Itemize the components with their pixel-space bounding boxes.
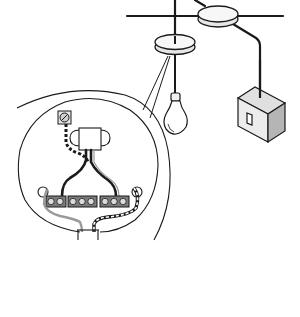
- wiring-diagram: [0, 0, 300, 317]
- ceiling-rose: [155, 35, 195, 55]
- magnified-rose: [18, 98, 158, 232]
- junction-box: [198, 6, 238, 27]
- earth-terminal: [58, 111, 71, 124]
- switch-rocker: [247, 113, 252, 125]
- terminal-block: [46, 196, 129, 207]
